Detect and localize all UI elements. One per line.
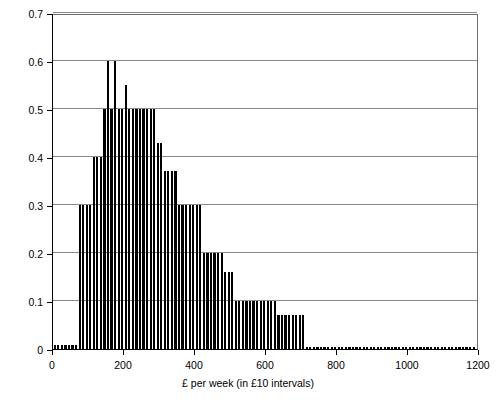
bar bbox=[292, 315, 294, 349]
bar bbox=[146, 109, 148, 349]
bar bbox=[419, 347, 421, 349]
bar bbox=[270, 301, 272, 349]
bar bbox=[334, 347, 336, 349]
x-tick bbox=[478, 350, 479, 355]
bar bbox=[199, 205, 201, 349]
x-tick-label: 600 bbox=[235, 360, 295, 371]
bar bbox=[86, 205, 88, 349]
bar bbox=[306, 347, 308, 349]
bar bbox=[210, 253, 212, 349]
bar bbox=[313, 347, 315, 349]
bar bbox=[61, 345, 63, 349]
bar bbox=[277, 315, 279, 349]
bar bbox=[228, 272, 230, 349]
bar bbox=[203, 253, 205, 349]
x-tick bbox=[194, 350, 195, 355]
bar bbox=[274, 301, 276, 349]
plot-area bbox=[52, 14, 478, 350]
bar bbox=[412, 347, 414, 349]
bar bbox=[235, 301, 237, 349]
x-tick-label: 1000 bbox=[377, 360, 437, 371]
y-tick bbox=[47, 62, 52, 63]
bar bbox=[327, 347, 329, 349]
x-tick-label: 400 bbox=[164, 360, 224, 371]
bar bbox=[68, 345, 70, 349]
bar bbox=[189, 205, 191, 349]
bar bbox=[302, 315, 304, 349]
x-tick-label: 200 bbox=[93, 360, 153, 371]
bar bbox=[64, 345, 66, 349]
bar bbox=[164, 171, 166, 349]
bar bbox=[299, 315, 301, 349]
x-tick-label: 0 bbox=[22, 360, 82, 371]
bar bbox=[100, 157, 102, 349]
bar bbox=[267, 301, 269, 349]
bar bbox=[263, 301, 265, 349]
bar bbox=[448, 347, 450, 349]
bar bbox=[238, 301, 240, 349]
bar bbox=[128, 109, 130, 349]
bar bbox=[178, 205, 180, 349]
bar bbox=[160, 143, 162, 349]
bar bbox=[125, 85, 127, 349]
bar bbox=[348, 347, 350, 349]
bar bbox=[387, 347, 389, 349]
bar bbox=[82, 205, 84, 349]
y-tick bbox=[47, 302, 52, 303]
bar bbox=[473, 347, 475, 349]
bar bbox=[103, 109, 105, 349]
bar bbox=[309, 347, 311, 349]
bar bbox=[139, 109, 141, 349]
bar bbox=[174, 171, 176, 349]
bar bbox=[242, 301, 244, 349]
bar bbox=[338, 347, 340, 349]
bar bbox=[118, 109, 120, 349]
bar bbox=[150, 109, 152, 349]
bar bbox=[352, 347, 354, 349]
bar bbox=[89, 205, 91, 349]
bar bbox=[224, 272, 226, 349]
bar bbox=[75, 345, 77, 349]
bar bbox=[430, 347, 432, 349]
bar bbox=[373, 347, 375, 349]
bar bbox=[79, 205, 81, 349]
bar bbox=[107, 61, 109, 349]
bar-series bbox=[53, 15, 477, 349]
bar bbox=[110, 109, 112, 349]
y-tick-label: 0 bbox=[0, 345, 43, 356]
bar bbox=[451, 347, 453, 349]
bar bbox=[256, 301, 258, 349]
bar bbox=[288, 315, 290, 349]
bar bbox=[132, 109, 134, 349]
bar bbox=[71, 345, 73, 349]
bar bbox=[284, 315, 286, 349]
bar bbox=[153, 109, 155, 349]
bar bbox=[323, 347, 325, 349]
bar bbox=[213, 253, 215, 349]
bar bbox=[366, 347, 368, 349]
x-tick bbox=[407, 350, 408, 355]
bar bbox=[295, 315, 297, 349]
bar bbox=[359, 347, 361, 349]
bar bbox=[394, 347, 396, 349]
bar bbox=[157, 143, 159, 349]
bar bbox=[469, 347, 471, 349]
y-tick bbox=[47, 110, 52, 111]
x-tick-label: 1200 bbox=[448, 360, 496, 371]
x-tick bbox=[123, 350, 124, 355]
bar bbox=[167, 171, 169, 349]
bar bbox=[409, 347, 411, 349]
bar bbox=[54, 345, 56, 349]
bar bbox=[316, 347, 318, 349]
bar bbox=[245, 301, 247, 349]
bar bbox=[171, 171, 173, 349]
x-tick bbox=[336, 350, 337, 355]
bar bbox=[231, 272, 233, 349]
bar bbox=[384, 347, 386, 349]
bar bbox=[331, 347, 333, 349]
bar bbox=[458, 347, 460, 349]
y-tick bbox=[47, 254, 52, 255]
y-tick-label: 0.3 bbox=[0, 201, 43, 212]
y-tick bbox=[47, 14, 52, 15]
bar bbox=[402, 347, 404, 349]
